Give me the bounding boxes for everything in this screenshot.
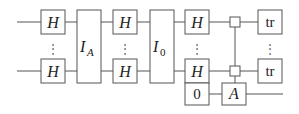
svg-text:tr: tr	[265, 63, 274, 79]
h-gate-col3-top: H	[185, 10, 209, 34]
svg-text:tr: tr	[265, 14, 274, 30]
vdots-col2: ⋮	[119, 42, 131, 56]
h-gate-col2-bottom: H	[113, 59, 137, 83]
svg-text:H: H	[190, 14, 204, 31]
zero-ancilla: 0	[185, 83, 209, 105]
quantum-circuit-diagram: H ⋮ H I A H ⋮ H I 0 H ⋮ H 0	[0, 0, 299, 114]
svg-text:0: 0	[193, 86, 201, 102]
svg-text:I: I	[79, 38, 86, 55]
tr-gate-bottom: tr	[258, 59, 282, 83]
control-square-top	[230, 17, 240, 27]
tr-gate-top: tr	[258, 10, 282, 34]
h-gate-col1-bottom: H	[41, 59, 65, 83]
h-gate-col2-top: H	[113, 10, 137, 34]
i0-gate: I 0	[150, 10, 174, 83]
vdots-col3: ⋮	[191, 42, 203, 56]
svg-text:H: H	[46, 63, 60, 80]
control-square-bottom	[230, 66, 240, 76]
a-gate: A	[222, 83, 246, 105]
svg-text:H: H	[118, 63, 132, 80]
svg-text:0: 0	[160, 46, 166, 58]
svg-text:A: A	[228, 85, 239, 102]
svg-text:H: H	[46, 14, 60, 31]
svg-text:A: A	[86, 46, 94, 58]
svg-text:I: I	[152, 38, 159, 55]
vdots-col1: ⋮	[47, 42, 59, 56]
svg-text:H: H	[190, 63, 204, 80]
h-gate-col1-top: H	[41, 10, 65, 34]
svg-text:H: H	[118, 14, 132, 31]
vdots-tr: ⋮	[264, 42, 276, 56]
h-gate-col3-bottom: H	[185, 59, 209, 83]
ia-gate: I A	[77, 10, 101, 83]
